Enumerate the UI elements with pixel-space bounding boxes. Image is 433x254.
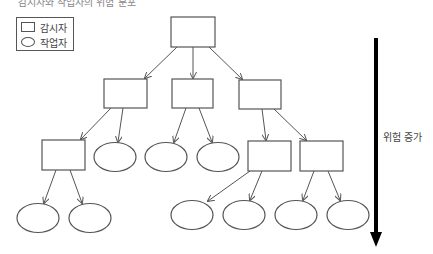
edge-arrow: [208, 171, 250, 201]
edge-arrow: [44, 170, 56, 203]
supervisor-node: [171, 17, 215, 47]
supervisor-node: [239, 80, 281, 109]
edge-arrow: [209, 47, 242, 79]
edge-arrow: [303, 171, 314, 200]
edge-arrow: [274, 109, 306, 140]
edge-arrow: [70, 170, 82, 203]
hierarchy-diagram: [0, 0, 433, 254]
edge-arrow: [199, 108, 212, 142]
worker-node: [223, 201, 265, 230]
worker-node: [69, 204, 111, 233]
worker-node: [94, 143, 136, 172]
supervisor-node: [104, 79, 147, 108]
worker-node: [17, 204, 59, 233]
edge-arrow: [262, 109, 266, 140]
supervisor-node: [172, 79, 213, 108]
edge-arrow: [250, 171, 262, 200]
supervisor-node: [248, 141, 291, 171]
edge-arrow: [118, 108, 123, 142]
worker-node: [327, 201, 369, 230]
risk-arrow: [370, 38, 382, 247]
edge-arrow: [328, 171, 340, 200]
edge-arrow: [145, 47, 177, 78]
worker-node: [197, 143, 239, 172]
supervisor-node: [300, 141, 343, 171]
risk-increase-label: 위험 증가: [383, 129, 422, 144]
worker-node: [145, 143, 187, 172]
worker-node: [171, 201, 213, 230]
supervisor-node: [42, 140, 85, 170]
edge-arrow: [174, 108, 186, 142]
worker-node: [275, 201, 317, 230]
edge-arrow: [81, 108, 111, 139]
